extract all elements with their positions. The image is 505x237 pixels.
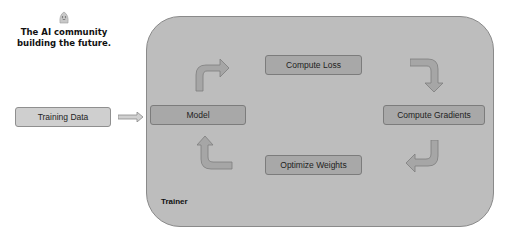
curved-arrow-left-up-icon bbox=[197, 133, 233, 171]
tagline-line-1: The AI community bbox=[4, 27, 124, 38]
training-data-node: Training Data bbox=[15, 107, 111, 127]
trainer-label: Trainer bbox=[161, 197, 188, 206]
compute-loss-node: Compute Loss bbox=[265, 55, 362, 75]
curved-arrow-up-right-icon bbox=[194, 57, 232, 93]
hugging-face-icon bbox=[57, 10, 71, 24]
compute-gradients-label: Compute Gradients bbox=[397, 110, 471, 120]
compute-loss-label: Compute Loss bbox=[286, 60, 341, 70]
optimize-weights-node: Optimize Weights bbox=[265, 155, 362, 175]
model-label: Model bbox=[186, 110, 209, 120]
compute-gradients-node: Compute Gradients bbox=[383, 105, 485, 125]
arrow-right-icon bbox=[118, 112, 144, 122]
brand-header: The AI community building the future. bbox=[4, 10, 124, 49]
optimize-weights-label: Optimize Weights bbox=[280, 160, 346, 170]
curved-arrow-down-left-icon bbox=[405, 140, 441, 174]
curved-arrow-right-down-icon bbox=[410, 57, 444, 93]
model-node: Model bbox=[150, 105, 246, 125]
tagline-line-2: building the future. bbox=[4, 38, 124, 49]
training-data-label: Training Data bbox=[38, 112, 89, 122]
